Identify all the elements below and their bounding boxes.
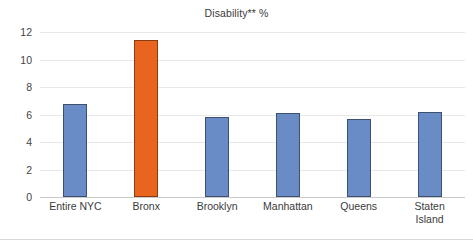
- x-axis-label-line: Brooklyn: [197, 200, 238, 212]
- x-axis-label-line: Entire NYC: [49, 200, 102, 212]
- chart-title: Disability** %: [0, 7, 473, 19]
- bar-slot: [323, 32, 394, 197]
- bar-slot: [111, 32, 182, 197]
- y-axis-tick-label: 12: [20, 26, 40, 38]
- bar-slot: [182, 32, 253, 197]
- bar[interactable]: [418, 112, 442, 197]
- x-axis-labels: Entire NYCBronxBrooklynManhattanQueensSt…: [40, 200, 465, 240]
- x-axis-label: Queens: [323, 200, 394, 213]
- y-axis-tick-label: 8: [26, 81, 40, 93]
- bar[interactable]: [134, 40, 158, 197]
- bar-series: [40, 32, 465, 197]
- bar[interactable]: [347, 119, 371, 197]
- y-axis-tick-label: 4: [26, 136, 40, 148]
- x-axis-label-line: Staten: [414, 200, 444, 212]
- y-axis-tick-label: 10: [20, 54, 40, 66]
- x-axis-label: Entire NYC: [40, 200, 111, 213]
- bar[interactable]: [63, 104, 87, 198]
- y-axis-tick-label: 6: [26, 109, 40, 121]
- plot-area: 024681012: [40, 32, 465, 197]
- bar[interactable]: [205, 117, 229, 197]
- x-axis-label: Manhattan: [253, 200, 324, 213]
- y-axis-tick-label: 0: [26, 191, 40, 203]
- bar-slot: [253, 32, 324, 197]
- x-axis-label-line: Bronx: [133, 200, 160, 212]
- y-axis-tick-label: 2: [26, 164, 40, 176]
- x-axis-label: Brooklyn: [182, 200, 253, 213]
- x-axis-label-line: Queens: [340, 200, 377, 212]
- bar[interactable]: [276, 113, 300, 197]
- gridline: [40, 197, 465, 198]
- x-axis-label-line: Island: [394, 213, 465, 226]
- x-axis-label: StatenIsland: [394, 200, 465, 225]
- bar-slot: [394, 32, 465, 197]
- bar-slot: [40, 32, 111, 197]
- x-axis-label: Bronx: [111, 200, 182, 213]
- x-axis-label-line: Manhattan: [263, 200, 313, 212]
- chart-figure: Disability** % 024681012 Entire NYCBronx…: [0, 0, 473, 240]
